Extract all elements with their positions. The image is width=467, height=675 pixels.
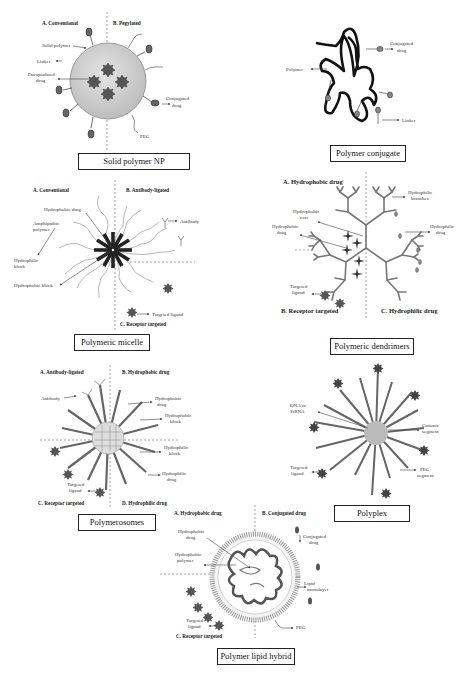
label-linker: Linker: [37, 59, 51, 64]
polymersomes-head-a: A. Antibody-ligated: [40, 369, 84, 375]
label-polymer: Polymer: [286, 67, 303, 72]
label-lipid: Lipid: [304, 581, 315, 586]
caption-solid-polymer-np: Solid polymer NP: [78, 153, 190, 170]
label-antibody: Antibody: [180, 219, 199, 224]
hydrophobic-drugs: [341, 230, 365, 280]
label-linker: Linker: [402, 118, 416, 123]
micelle-head-a: A. Conventional: [33, 187, 70, 193]
polymeric-dendrimers-diagram: A. Hydrophobic drug B. Receptor targeted…: [272, 172, 455, 318]
label-hydrophilic-drug: drug: [436, 230, 446, 235]
solid-np-head-a: A. Conventional: [42, 20, 79, 26]
label-hydrophobic: Hydrophobic: [272, 224, 299, 229]
label-hydrophobic-block: block: [170, 419, 182, 424]
polymer-lipid-hybrid-diagram: A. Hydrophobic drug B. Conjugated drug C…: [160, 505, 329, 639]
label-peg-segment: segment: [417, 473, 434, 478]
caption-polyplex: Polyplex: [334, 505, 410, 522]
label-conjugated: Conjugated: [303, 534, 327, 539]
label-hydrophilic-block: block: [169, 451, 181, 456]
label-sirna: SiRNA: [290, 409, 305, 414]
lipid-head-c: C. Receptor targeted: [176, 633, 222, 639]
hydrophobic-drug-dot: [112, 249, 114, 251]
label-hydrophobic-drug: drug: [277, 230, 287, 235]
label-hydrophobic: Hydrophobic: [155, 396, 182, 401]
label-targeted-ligand: ligand: [188, 624, 201, 629]
polymer-sphere: [70, 43, 146, 119]
label-targeted-ligand: ligand: [291, 471, 304, 476]
label-conjugated-drug: drug: [172, 103, 182, 108]
label-targeted-ligand: Targeted ligand: [152, 312, 184, 317]
label-hydrophilic: Hydrophilic: [14, 258, 39, 263]
polyplex-diagram: DNA or SiRNA Cationic segment Targeted l…: [290, 363, 440, 499]
polymersomes-head-c: C. Receptor targeted: [38, 500, 84, 506]
polymer-chain: [316, 29, 376, 121]
label-hydrophobic-core: core: [300, 215, 309, 220]
solid-np-head-b: B. Pegylated: [113, 20, 141, 26]
label-encapsulated: Encapsulated: [28, 72, 55, 77]
label-hydrophilic-branches: branches: [411, 196, 429, 201]
label-lipid-monolayer: monolayer: [307, 587, 329, 592]
label-conjugated: Conjugated: [166, 96, 190, 101]
micelle-head-c: C. Receptor targeted: [120, 321, 166, 327]
solid-polymer-np-diagram: A. Conventional B. Pegylated Solid polym…: [28, 12, 190, 150]
label-dna: DNA or: [290, 403, 306, 408]
caption-polymeric-micelle: Polymeric micelle: [74, 334, 150, 351]
label-antibody: Antibody: [41, 396, 60, 401]
label-hydrophilic: Hydrophilic: [408, 190, 433, 195]
label-conjugated-drug: drug: [397, 48, 407, 53]
label-targeted: Targeted: [290, 465, 308, 470]
polymersomes-head-d: D. Hydrophilic drug: [122, 500, 167, 506]
label-cationic-segment: segment: [422, 429, 439, 434]
caption-polymer-conjugate: Polymer conjugate: [330, 145, 406, 162]
label-amphipathic: Amphipathic: [33, 221, 60, 226]
label-hydrophobic: Hydrophobic: [175, 552, 202, 557]
label-targeted-ligand: ligand: [69, 488, 82, 493]
label-targeted: Targeted: [290, 284, 308, 289]
label-conjugated-drug: drug: [309, 540, 319, 545]
label-peg: PEG: [140, 134, 150, 139]
dendrimers-head-a: A. Hydrophobic drug: [283, 178, 343, 185]
label-targeted-ligand: ligand: [292, 290, 305, 295]
polymersomes-diagram: A. Antibody-ligated B. Hydrophobic drug …: [38, 365, 192, 508]
lipid-head-a: A. Hydrophobic drug: [174, 510, 222, 516]
caption-polymer-lipid-hybrid: Polymer lipid hybrid: [217, 648, 295, 665]
label-peg: PEG: [420, 467, 430, 472]
dendrimer-branches: [309, 187, 423, 300]
label-encapsulated-drug: drug: [36, 78, 46, 83]
label-hydrophobic: Hydrophobic: [165, 413, 192, 418]
dendrimers-head-b: B. Receptor targeted: [281, 307, 339, 314]
label-hydrophobic-drug: drug: [157, 402, 167, 407]
label-hydrophobic: Hydrophobic: [178, 529, 205, 534]
label-hydrophobic-drug: Hydrophobic drug: [44, 207, 81, 212]
label-hydrophilic: Hydrophilic: [164, 445, 189, 450]
label-targeted: Targeted: [67, 482, 85, 487]
label-hydrophobic-block: Hydrophobic block: [14, 283, 53, 288]
dendrimers-head-c: C. Hydrophilic drug: [381, 307, 438, 314]
polymer-conjugate-diagram: Conjugated drug Polymer Linker: [286, 29, 416, 124]
label-hydrophilic-block: block: [14, 264, 26, 269]
label-targeted: Targeted: [186, 618, 204, 623]
label-hydrophilic: Hydrophilic: [430, 224, 455, 229]
polymeric-micelle-diagram: A. Conventional B. Antibody-ligated C. R…: [14, 180, 199, 330]
hydrophilic-drugs: [395, 212, 422, 273]
caption-polymersomes: Polymerosomes: [78, 514, 156, 531]
label-cationic: Cationic: [422, 423, 440, 428]
label-hydrophilic: Hydrophilic: [162, 471, 187, 476]
micelle-head-b: B. Antibody-ligated: [126, 187, 169, 193]
label-hydrophobic: Hydrophobic: [293, 209, 320, 214]
lipid-head-b: B. Conjugated drug: [262, 510, 306, 516]
label-hydrophobic-drug: drug: [186, 535, 196, 540]
label-amphipathic-polymer: polymer: [33, 227, 50, 232]
polyplex-core: [364, 421, 388, 445]
label-solid-polymer: Solid polymer: [42, 43, 71, 48]
label-hydrophobic-polymer: polymer: [177, 558, 194, 563]
label-conjugated: Conjugated: [390, 41, 414, 46]
label-hydrophilic-drug: drug: [167, 477, 177, 482]
caption-polymeric-dendrimers: Polymeric dendrimers: [330, 338, 414, 355]
label-peg: PEG: [296, 625, 306, 630]
vesicle-membrane: [92, 422, 124, 454]
polymersomes-head-b: B. Hydrophobic drug: [122, 369, 170, 375]
